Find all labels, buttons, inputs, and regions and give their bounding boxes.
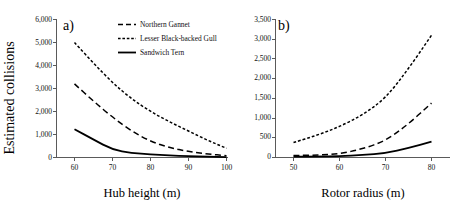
x-tick-label: 100: [221, 163, 233, 172]
x-tick-label: 60: [336, 163, 344, 172]
panel-label-b: b): [278, 18, 290, 34]
series-group-b: [294, 35, 432, 156]
x-tick-label: 80: [428, 163, 436, 172]
x-tick-label: 70: [109, 163, 117, 172]
y-tick-label: 1,500: [254, 93, 271, 102]
y-tick-label: 2,000: [254, 73, 271, 82]
legend-label-northern-gannet: Northern Gannet: [140, 20, 191, 29]
y-tick-label: 6,000: [35, 15, 52, 24]
y-tick-label: 1,000: [35, 130, 52, 139]
panel-a-plot: Estimated collisions a) 6,000 5,000 4,00…: [0, 0, 235, 214]
y-tick-label: 500: [260, 132, 272, 141]
figure-root: Estimated collisions a) 6,000 5,000 4,00…: [0, 0, 469, 214]
legend-label-sandwich-tern: Sandwich Tern: [140, 48, 185, 57]
y-tick-label: 0: [48, 153, 52, 162]
series-line-northern-gannet: [75, 84, 227, 156]
y-tick-label: 3,000: [35, 84, 52, 93]
y-axis-title: Estimated collisions: [2, 41, 17, 154]
y-tick-label: 4,000: [35, 61, 52, 70]
series-line-lesser-black-backed-gull: [294, 35, 432, 142]
panel-label-a: a): [63, 18, 74, 34]
x-tick-label: 80: [147, 163, 155, 172]
legend-label-lesser-black-backed-gull: Lesser Black-backed Gull: [140, 34, 217, 43]
x-tick-label: 70: [382, 163, 390, 172]
chart-panel-a: Estimated collisions a) 6,000 5,000 4,00…: [0, 0, 235, 214]
x-tick-label: 60: [71, 163, 79, 172]
x-tick-label: 50: [290, 163, 298, 172]
y-tick-label: 0: [267, 152, 271, 161]
series-line-sandwich-tern: [75, 129, 227, 157]
y-tick-label: 3,000: [254, 34, 271, 43]
x-axis-title: Rotor radius (m): [321, 186, 404, 200]
x-tick-label: 90: [185, 163, 193, 172]
y-tick-label: 2,000: [35, 107, 52, 116]
y-tick-label: 1,000: [254, 113, 271, 122]
legend: Northern Gannet Lesser Black-backed Gull…: [118, 20, 217, 57]
y-tick-label: 5,000: [35, 38, 52, 47]
y-tick-label: 2,500: [254, 54, 271, 63]
y-tick-label: 3,500: [254, 15, 271, 24]
chart-panel-b: b) 3,500 3,000 2,500 2,000 1,500 1,000 5…: [235, 0, 469, 214]
series-line-lesser-black-backed-gull: [75, 43, 227, 149]
panel-b-plot: b) 3,500 3,000 2,500 2,000 1,500 1,000 5…: [235, 0, 469, 214]
x-axis-title: Hub height (m): [103, 186, 180, 200]
series-group-a: [75, 43, 227, 158]
